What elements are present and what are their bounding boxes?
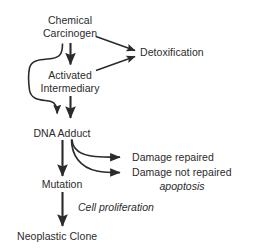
node-chemical-carcinogen-line1: Chemical [43,14,97,27]
edge-carcinogen-to-detoxification [96,37,135,51]
node-damage-repaired-label: Damage repaired [132,151,214,164]
node-dna-adduct: DNA Adduct [33,127,90,140]
carcinogenesis-flow-diagram: Chemical Carcinogen Activated Intermedia… [0,0,255,249]
node-detoxification: Detoxification [140,46,204,59]
node-neoplastic-clone-label: Neoplastic Clone [17,230,97,243]
annotation-cell-proliferation: Cell proliferation [78,201,154,214]
node-damage-repaired: Damage repaired [132,151,214,164]
node-mutation-label: Mutation [42,178,83,191]
node-chemical-carcinogen-line2: Carcinogen [43,27,97,40]
node-damage-not-repaired-label: Damage not repaired [132,166,232,179]
node-activated-intermediary-line1: Activated [41,69,100,82]
annotation-cell-proliferation-label: Cell proliferation [78,201,154,213]
annotation-apoptosis: apoptosis [160,180,205,193]
node-chemical-carcinogen: Chemical Carcinogen [43,14,97,39]
edge-intermediary-to-detoxification [96,57,135,71]
node-neoplastic-clone: Neoplastic Clone [17,230,97,243]
node-detoxification-label: Detoxification [140,46,204,59]
node-mutation: Mutation [42,178,83,191]
node-dna-adduct-label: DNA Adduct [33,127,90,140]
node-damage-not-repaired: Damage not repaired [132,166,232,179]
edge-dna-adduct-to-damage-repaired [72,140,120,158]
node-activated-intermediary-line2: Intermediary [41,82,100,95]
node-activated-intermediary: Activated Intermediary [41,69,100,94]
annotation-apoptosis-label: apoptosis [160,180,205,192]
